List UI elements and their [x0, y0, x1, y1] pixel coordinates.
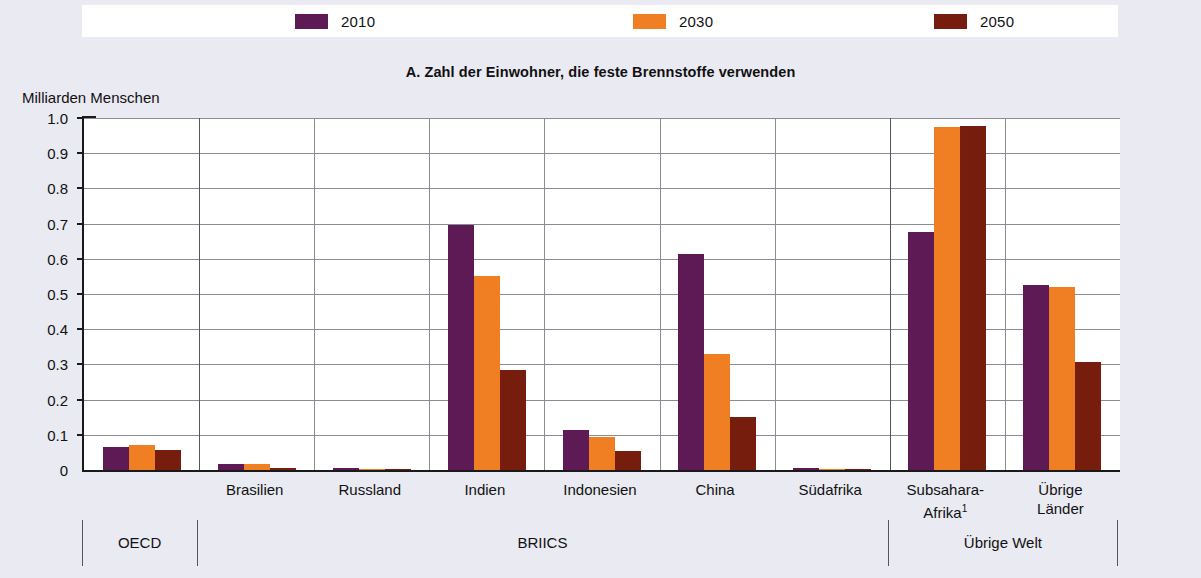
bar-2030-Indonesien — [589, 437, 615, 470]
y-axis-tick-label: 0.2 — [24, 391, 68, 408]
bar-2030-China — [704, 354, 730, 470]
y-axis-tick-mark — [77, 363, 84, 365]
bar-2010-brigeLnder — [1023, 285, 1049, 470]
y-axis-tick-label: 0.9 — [24, 145, 68, 162]
category-separator-line — [1005, 118, 1006, 470]
y-axis-tick-mark — [77, 223, 84, 225]
y-axis-tick-labels: 1.00.90.80.70.60.50.40.30.20.10 — [20, 118, 68, 470]
y-axis-tick-label: 0.6 — [24, 250, 68, 267]
bar-2010-Brasilien — [218, 464, 244, 470]
bar-2030-Brasilien — [244, 464, 270, 470]
bar-2010-China — [678, 254, 704, 470]
bar-2050-Indien — [500, 370, 526, 470]
bar-2030-OECD — [129, 445, 155, 470]
x-axis-label-Indonesien: Indonesien — [542, 480, 657, 499]
x-axis-label-Indien: Indien — [427, 480, 542, 499]
y-axis-tick-mark — [77, 434, 84, 436]
category-separator-line — [660, 118, 661, 470]
y-axis-tick-label: 0.4 — [24, 321, 68, 338]
bar-2010-Sdafrika — [793, 468, 819, 470]
group-label-OECD: OECD — [82, 534, 197, 551]
group-label-BRIICS: BRIICS — [197, 534, 888, 551]
bar-2030-brigeLnder — [1049, 287, 1075, 470]
x-axis-label-SubsaharaAfrika: Subsahara-Afrika1 — [888, 480, 1003, 522]
bar-2050-Indonesien — [615, 451, 641, 470]
bar-2050-SubsaharaAfrika — [960, 126, 986, 470]
y-axis-tick-mark — [77, 258, 84, 260]
x-axis-label-Sdafrika: Südafrika — [773, 480, 888, 499]
bar-2050-China — [730, 417, 756, 471]
bar-2050-Brasilien — [270, 468, 296, 470]
group-separator-line — [199, 118, 200, 470]
y-axis-tick-label: 0 — [24, 462, 68, 479]
y-axis-tick-label: 1.0 — [24, 110, 68, 127]
category-separator-line — [544, 118, 545, 470]
y-axis-tick-label: 0.3 — [24, 356, 68, 373]
bar-2030-Sdafrika — [819, 469, 845, 470]
category-separator-line — [775, 118, 776, 470]
bar-2030-Indien — [474, 276, 500, 470]
y-axis-tick-label: 0.5 — [24, 286, 68, 303]
y-axis-tick-label: 0.1 — [24, 426, 68, 443]
category-separator-line — [429, 118, 430, 470]
bar-2050-brigeLnder — [1075, 362, 1101, 470]
y-axis-tick-mark — [77, 328, 84, 330]
y-axis-tick-label: 0.8 — [24, 180, 68, 197]
y-axis-tick-mark — [77, 293, 84, 295]
y-axis-tick-mark — [77, 399, 84, 401]
bar-2010-Indien — [448, 225, 474, 470]
bar-2030-SubsaharaAfrika — [934, 127, 960, 470]
x-axis-group-band: OECDBRIICSÜbrige Welt — [82, 520, 1118, 566]
bar-2050-Sdafrika — [845, 469, 871, 470]
y-axis-tick-mark — [77, 117, 84, 119]
x-axis-label-China: China — [658, 480, 773, 499]
x-axis-label-Russland: Russland — [312, 480, 427, 499]
y-axis-tick-mark — [77, 152, 84, 154]
bar-2010-Indonesien — [563, 430, 589, 470]
bar-2050-Russland — [385, 469, 411, 470]
group-separator-line — [890, 118, 891, 470]
plot-area — [82, 118, 1120, 472]
x-axis-label-Brasilien: Brasilien — [197, 480, 312, 499]
y-axis-tick-mark — [77, 187, 84, 189]
x-axis-category-labels: BrasilienRusslandIndienIndonesienChinaSü… — [82, 474, 1118, 520]
gridline-y — [84, 118, 1120, 119]
bar-2010-OECD — [103, 447, 129, 470]
bar-2010-Russland — [333, 468, 359, 470]
bar-2010-SubsaharaAfrika — [908, 232, 934, 470]
bar-2050-OECD — [155, 450, 181, 470]
group-label-brigeWelt: Übrige Welt — [888, 534, 1118, 551]
y-axis-tick-label: 0.7 — [24, 215, 68, 232]
bar-2030-Russland — [359, 469, 385, 470]
x-axis-label-brigeLnder: ÜbrigeLänder — [1003, 480, 1118, 518]
category-separator-line — [314, 118, 315, 470]
